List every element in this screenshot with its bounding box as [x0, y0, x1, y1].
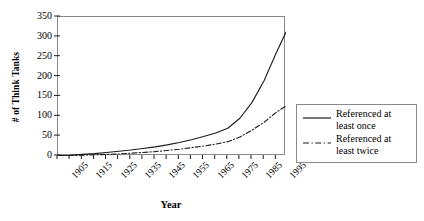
x-tick-label: 1975 — [239, 160, 260, 181]
x-tick-label: 1915 — [94, 160, 115, 181]
x-axis-title: Year — [57, 199, 285, 210]
legend-label-line2: least once — [336, 120, 376, 131]
legend-entry-referenced-at-least-once: Referenced at least once — [302, 109, 414, 133]
think-tanks-line-chart: # of Think Tanks 350300250200150100500 1… — [0, 0, 424, 221]
x-tick-label: 1995 — [288, 160, 309, 181]
legend-swatch-solid-line — [302, 114, 332, 122]
x-tick-label: 1955 — [191, 160, 212, 181]
legend-label-line2: least twice — [336, 145, 378, 156]
chart-legend: Referenced at least once Referenced at l… — [296, 104, 417, 163]
x-tick-label: 1935 — [142, 160, 163, 181]
legend-label-line1: Referenced at — [336, 133, 391, 144]
x-tick-label: 1905 — [70, 160, 91, 181]
x-tick-label: 1965 — [215, 160, 236, 181]
x-tick-label: 1925 — [118, 160, 139, 181]
legend-swatch-dash-dot-line — [302, 139, 332, 147]
x-tick-label: 1945 — [167, 160, 188, 181]
legend-label-line1: Referenced at — [336, 108, 391, 119]
legend-label-referenced-at-least-once: Referenced at least once — [336, 108, 416, 131]
legend-entry-referenced-at-least-twice: Referenced at least twice — [302, 134, 414, 158]
legend-label-referenced-at-least-twice: Referenced at least twice — [336, 133, 416, 156]
x-tick-label: 1985 — [264, 160, 285, 181]
